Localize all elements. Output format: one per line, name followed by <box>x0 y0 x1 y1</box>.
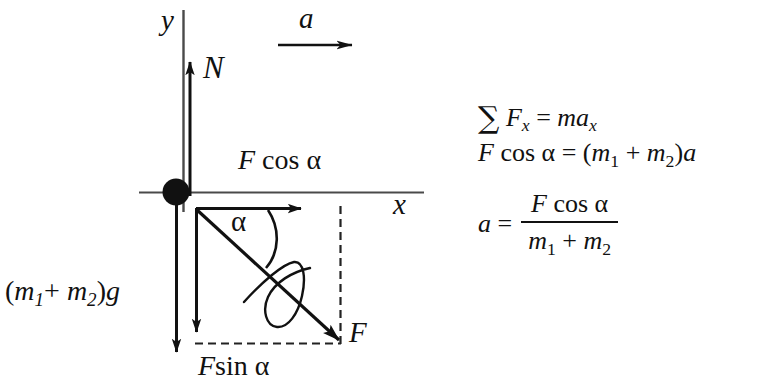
weight-paren-open: ( <box>5 275 14 306</box>
figure-canvas: y x N a F cos α α (m1+ m2)g F Fsin α ∑ F… <box>0 0 781 386</box>
eq3-numerator: F cos α <box>524 189 615 221</box>
fcos-cos: cos <box>262 144 299 175</box>
eq1-F-sub: x <box>522 115 530 135</box>
eq2-paren-open: ( <box>583 138 592 167</box>
normal-force-label: N <box>203 52 224 83</box>
weight-plus: + <box>44 275 60 306</box>
weight-m1: m <box>14 275 34 306</box>
eq2-cos: cos <box>500 138 535 167</box>
y-axis-label: y <box>161 6 174 35</box>
eq2-F: F <box>478 138 494 167</box>
equation-line-2: F cos α = (m1 + m2)a <box>478 137 696 172</box>
x-axis-label: x <box>393 190 406 219</box>
equation-block: ∑ Fx = max F cos α = (m1 + m2)a a = F co… <box>478 100 696 259</box>
eq1-equals: = <box>536 103 551 132</box>
eq1-F: F <box>506 103 522 132</box>
eq3-lhs: a = <box>478 209 512 239</box>
eq3-denominator: m1 + m2 <box>521 223 618 260</box>
origin-point-mass <box>163 179 190 206</box>
eq3-den-m2: m <box>583 226 602 255</box>
eq2-paren-close: ) <box>674 138 683 167</box>
weight-space <box>60 275 67 306</box>
eq2-alpha: α <box>542 138 556 167</box>
eq1-m: m <box>557 103 576 132</box>
weight-g: g <box>106 275 120 306</box>
fcos-F: F <box>238 144 255 175</box>
fsin-sin: sin <box>215 350 248 381</box>
eq3-num-alpha: α <box>595 189 609 218</box>
fsin-alpha: α <box>255 350 270 381</box>
eq3-den-plus: + <box>562 226 577 255</box>
eq3-num-cos: cos <box>553 189 588 218</box>
equation-line-1: ∑ Fx = max <box>478 100 696 137</box>
acceleration-label: a <box>299 4 314 33</box>
eq3-a: a <box>478 209 491 238</box>
eq3-num-F: F <box>531 189 547 218</box>
applied-force-label: F <box>349 318 367 347</box>
equation-line-3: a = F cos α m1 + m2 <box>478 189 696 259</box>
eq2-m1-sub: 1 <box>610 151 619 171</box>
fsin-F: F <box>198 350 215 381</box>
eq2-a: a <box>683 138 696 167</box>
eq1-a: a <box>576 103 589 132</box>
eq3-fraction: F cos α m1 + m2 <box>521 189 618 259</box>
weight-m2-sub: 2 <box>87 289 97 310</box>
eq3-den-m1: m <box>528 226 547 255</box>
weight-paren-close: ) <box>97 275 106 306</box>
angle-label: α <box>231 207 246 236</box>
force-y-component-label: Fsin α <box>198 352 269 380</box>
fcos-alpha: α <box>306 144 321 175</box>
eq3-den-m2-sub: 2 <box>602 238 611 258</box>
weight-label: (m1+ m2)g <box>5 277 120 309</box>
fsin-spacer <box>248 350 255 381</box>
eq3-den-m1-sub: 1 <box>547 238 556 258</box>
weight-m1-sub: 1 <box>35 289 45 310</box>
weight-m2: m <box>67 275 87 306</box>
eq2-m2: m <box>647 138 666 167</box>
eq3-equals: = <box>498 209 513 238</box>
hand-drawn-scribble <box>244 262 310 327</box>
summation-symbol: ∑ <box>478 100 499 135</box>
eq1-a-sub: x <box>589 115 597 135</box>
angle-arc <box>266 210 277 268</box>
force-x-component-label: F cos α <box>238 146 321 174</box>
eq2-m1: m <box>592 138 611 167</box>
eq2-plus: + <box>626 138 641 167</box>
eq2-equals: = <box>562 138 577 167</box>
